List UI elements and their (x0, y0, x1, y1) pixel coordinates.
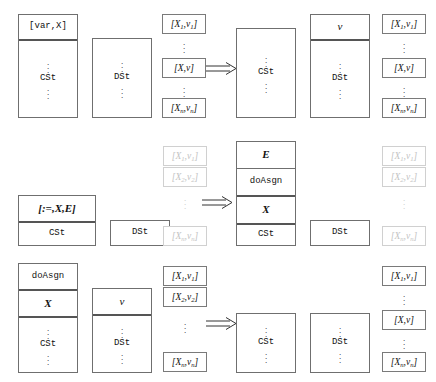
rule3-lhs-env-box-n: [Xn,vn] (163, 352, 207, 372)
rule1-rhs-env-ellipsis-top: ... (382, 40, 426, 52)
env-pair-label: [X,v] (174, 63, 194, 73)
env-pair-label: [Xn,vn] (391, 103, 417, 113)
rule2-lhs-env-box-2: [X2,v2] (163, 167, 207, 187)
env-pair-label: [X1,v1] (391, 271, 417, 281)
rule1-rhs-env-ellipsis-bottom: ... (382, 84, 426, 96)
env-pair-label: [X,v] (394, 315, 414, 325)
cst-label: CSt (49, 229, 65, 238)
env-pair-label: [X1,v1] (172, 151, 198, 161)
caption-sliver (8, 376, 258, 382)
rule3-lhs-dst-body: ... DSt ... (93, 316, 151, 372)
double-right-arrow-icon (202, 196, 234, 210)
rule2-rhs-env-ellipsis: ... (382, 196, 426, 208)
rule2-lhs-env-box-1: [X1,v1] (163, 146, 207, 166)
rule1-rhs-env-box-n: [Xn,vn] (382, 98, 426, 118)
rule1-lhs-cst-top-cell: [var,X] (19, 15, 77, 41)
rule2-lhs-dst-body: DSt (111, 221, 169, 245)
rule2-lhs-cst-top-cell: [:=,X,E] (19, 196, 95, 223)
rule1-rhs-env-box-1: [X1,v1] (382, 14, 426, 34)
vertical-ellipsis-icon: ... (121, 85, 123, 97)
vertical-ellipsis-icon: ... (47, 326, 49, 338)
figure-canvas: [var,X] ... CSt ... ... DSt ... [X1,v1] … (0, 0, 436, 382)
rule3-lhs-dst-stack: v ... DSt ... (92, 288, 152, 373)
rule1-lhs-env-box-n: [Xn,vn] (162, 98, 206, 118)
rule3-implies-arrow (206, 317, 238, 331)
vertical-ellipsis-icon: ... (339, 324, 341, 336)
cell-label: X (44, 298, 51, 310)
cell-label: X (262, 204, 269, 216)
rule2-rhs-env-box-n: [Xn,vn] (382, 226, 426, 246)
rule1-rhs-dst-top-cell: v (311, 15, 369, 41)
rule1-lhs-env-ellipsis-top: ... (162, 40, 206, 52)
cst-label: CSt (258, 230, 274, 239)
vertical-ellipsis-icon: ... (339, 86, 341, 98)
rule1-lhs-env-box-1: [X1,v1] (162, 14, 206, 34)
vertical-ellipsis-icon: ... (265, 54, 267, 66)
env-pair-label: [X2,v2] (172, 292, 198, 302)
cell-label: doAsgn (250, 177, 282, 186)
env-pair-label: [X2,v2] (391, 172, 417, 182)
rule1-lhs-cst-stack: [var,X] ... CSt ... (18, 14, 78, 118)
rule1-rhs-cst-body: ... CSt ... (237, 29, 295, 117)
rule3-rhs-env-ellipsis-bottom: ... (382, 336, 426, 348)
env-pair-label: [Xn,vn] (391, 357, 417, 367)
rule3-lhs-cst-cell-x: X (19, 291, 77, 318)
rule3-rhs-env-ellipsis-top: ... (382, 292, 426, 304)
rule1-rhs-dst-stack: v ... DSt ... (310, 14, 370, 118)
rule1-rhs-env-box-mid: [X,v] (382, 58, 426, 78)
rule3-rhs-env-box-n: [Xn,vn] (382, 352, 426, 372)
rule3-lhs-dst-cell-v: v (93, 289, 151, 316)
rule3-lhs-env-box-2: [X2,v2] (163, 287, 207, 307)
cell-label: [:=,X,E] (38, 203, 75, 215)
rule3-rhs-cst-body: ... CSt ... (237, 314, 295, 372)
rule2-implies-arrow (202, 196, 234, 210)
rule2-rhs-dst-body: DSt (311, 221, 369, 245)
rule2-lhs-env-box-n: [Xn,vn] (163, 226, 207, 246)
cell-label: doAsgn (32, 272, 64, 281)
rule2-rhs-dst-stack: DSt (310, 220, 370, 246)
rule2-rhs-cst-body: CSt (237, 225, 295, 245)
rule2-lhs-cst-stack: [:=,X,E] CSt (18, 195, 96, 246)
vertical-ellipsis-icon: ... (47, 60, 49, 72)
rule3-lhs-cst-body: ... CSt ... (19, 318, 77, 372)
dst-label: DSt (132, 228, 148, 237)
vertical-ellipsis-icon: ... (47, 86, 49, 98)
rule3-rhs-env-box-mid: [X,v] (382, 310, 426, 330)
vertical-ellipsis-icon: ... (265, 350, 267, 362)
rule1-lhs-dst-stack: ... DSt ... (92, 38, 152, 118)
dst-label: DSt (332, 228, 348, 237)
vertical-ellipsis-icon: ... (121, 351, 123, 363)
env-pair-label: [X2,v2] (172, 172, 198, 182)
env-pair-label: [Xn,vn] (391, 231, 417, 241)
rule1-lhs-env-ellipsis-bottom: ... (162, 84, 206, 96)
rule1-lhs-env-box-mid: [X,v] (162, 58, 206, 78)
vertical-ellipsis-icon: ... (339, 60, 341, 72)
rule3-lhs-cst-stack: doAsgn X ... CSt ... (18, 263, 78, 373)
env-pair-label: [X1,v1] (391, 19, 417, 29)
rule1-lhs-dst-body: ... DSt ... (93, 39, 151, 117)
vertical-ellipsis-icon: ... (265, 324, 267, 336)
rule2-lhs-dst-stack: DSt (110, 220, 170, 246)
rule3-lhs-env-ellipsis: ... (163, 320, 207, 332)
rule1-implies-arrow (206, 62, 238, 76)
rule2-rhs-env-box-1: [X1,v1] (382, 146, 426, 166)
rule2-lhs-env-ellipsis: ... (163, 196, 207, 208)
rule2-rhs-cst-stack: E doAsgn X CSt (236, 141, 296, 246)
vertical-ellipsis-icon: ... (47, 352, 49, 364)
cell-label: E (262, 149, 269, 161)
rule2-lhs-cst-body: CSt (19, 223, 95, 245)
rule3-lhs-cst-cell-doasgn: doAsgn (19, 264, 77, 291)
vertical-ellipsis-icon: ... (339, 350, 341, 362)
rule2-rhs-env-box-2: [X2,v2] (382, 167, 426, 187)
double-right-arrow-icon (206, 317, 238, 331)
cell-label: [var,X] (29, 22, 67, 31)
rule1-rhs-cst-stack: ... CSt ... (236, 28, 296, 118)
env-pair-label: [X1,v1] (171, 19, 197, 29)
rule3-rhs-dst-body: ... DSt ... (311, 314, 369, 372)
double-right-arrow-icon (206, 62, 238, 76)
rule2-rhs-cst-cell-x: X (237, 197, 295, 225)
vertical-ellipsis-icon: ... (121, 59, 123, 71)
env-pair-label: [X,v] (394, 63, 414, 73)
rule1-rhs-dst-body: ... DSt ... (311, 41, 369, 117)
rule3-lhs-env-box-1: [X1,v1] (163, 266, 207, 286)
